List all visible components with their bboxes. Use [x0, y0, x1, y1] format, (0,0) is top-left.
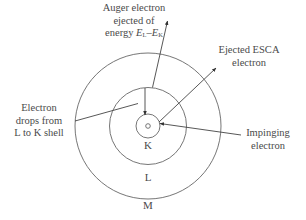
auger-label-line3: energy EL–EK: [84, 27, 184, 42]
auger-energy-prefix: energy: [105, 27, 136, 38]
nucleus: [146, 124, 151, 129]
k-shell-label: K: [140, 139, 156, 152]
auger-electron-label: Auger electron ejected of energy EL–EK: [84, 2, 184, 42]
impinging-label-line1: Impinging: [240, 127, 296, 140]
impinging-label-line2: electron: [240, 140, 296, 153]
impinging-electron-label: Impinging electron: [240, 127, 296, 152]
electron-drop-label: Electron drops from L to K shell: [6, 102, 72, 140]
esca-label-line2: electron: [212, 57, 286, 70]
drop-label-line1: Electron: [6, 102, 72, 115]
auger-label-line2: ejected of: [84, 15, 184, 28]
drop-label-line3: L to K shell: [6, 127, 72, 140]
m-shell-label: M: [140, 199, 156, 212]
energy-sub-k: K: [158, 31, 163, 38]
impinging-electron-arrow: [160, 124, 241, 136]
esca-electron-label: Ejected ESCA electron: [212, 44, 286, 69]
auger-label-line1: Auger electron: [84, 2, 184, 15]
l-shell-label: L: [140, 171, 156, 184]
esca-label-line1: Ejected ESCA: [212, 44, 286, 57]
k-shell-circle: [136, 114, 160, 138]
esca-electron-arrow: [159, 68, 216, 122]
electron-drop-leader-line: [75, 104, 138, 122]
drop-label-line2: drops from: [6, 115, 72, 128]
